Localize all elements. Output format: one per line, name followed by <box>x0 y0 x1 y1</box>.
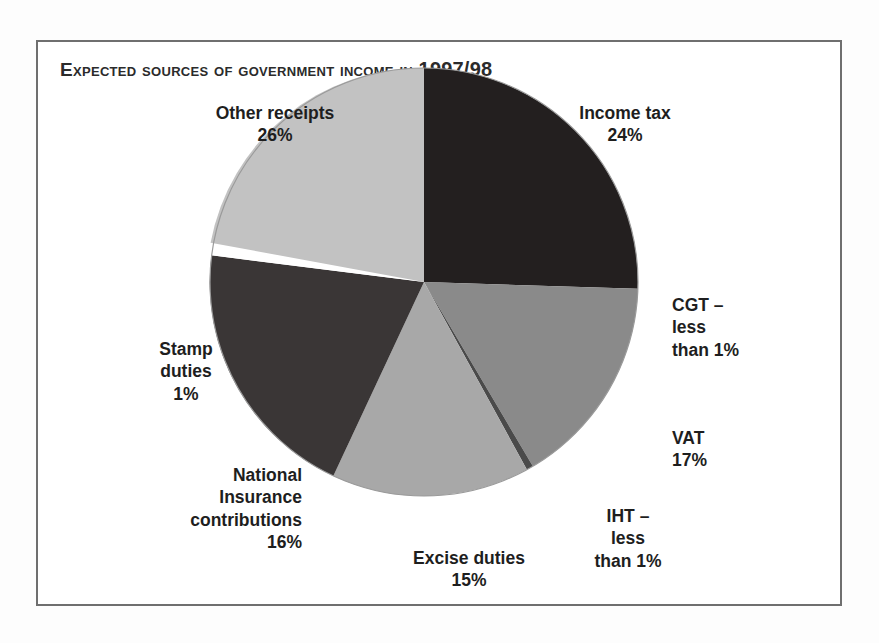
pie-label-cgt: CGT – less than 1% <box>672 294 822 361</box>
pie-label-national-insurance: National Insurance contributions 16% <box>82 464 302 554</box>
pie-label-iht: IHT – less than 1% <box>558 505 698 572</box>
pie-label-vat: VAT 17% <box>672 427 822 472</box>
page-background: Expected sources of government income in… <box>0 0 879 643</box>
pie-label-stamp-duties: Stamp duties 1% <box>116 338 256 405</box>
pie-label-other-receipts: Other receipts 26% <box>170 102 380 147</box>
pie-label-income-tax: Income tax 24% <box>530 102 720 147</box>
pie-chart-area: Other receipts 26% Income tax 24% CGT – … <box>38 42 844 608</box>
figure-frame: Expected sources of government income in… <box>36 40 842 606</box>
pie-label-excise-duties: Excise duties 15% <box>374 547 564 592</box>
